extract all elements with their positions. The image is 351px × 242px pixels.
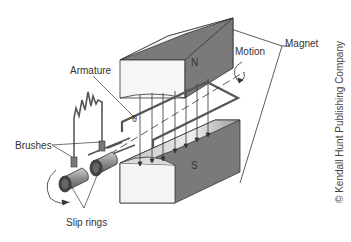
generator-illustration bbox=[0, 0, 351, 242]
slip-ring-back bbox=[90, 152, 117, 176]
motion-label: Motion bbox=[235, 46, 265, 57]
brushes-label: Brushes bbox=[15, 140, 52, 151]
slip-rings-label: Slip rings bbox=[66, 217, 107, 228]
south-pole-magnet bbox=[120, 120, 240, 203]
output-waveform-icon bbox=[74, 92, 102, 118]
armature-label: Armature bbox=[70, 65, 111, 76]
copyright-credit: © Kendall Hunt Publishing Company bbox=[334, 41, 345, 203]
slip-ring-front bbox=[59, 168, 88, 192]
south-pole-label: S bbox=[191, 161, 198, 171]
magnet-label: Magnet bbox=[285, 38, 318, 49]
motion-arrow-icon bbox=[234, 62, 244, 83]
angle-theta-label: θ bbox=[132, 114, 137, 124]
north-pole-label: N bbox=[191, 58, 198, 68]
generator-diagram: Armature Brushes Slip rings Motion Magne… bbox=[0, 0, 351, 242]
